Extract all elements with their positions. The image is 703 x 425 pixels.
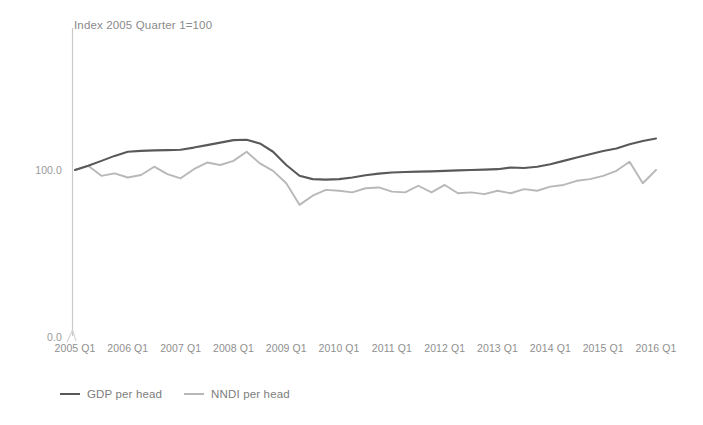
chart-container: Index 2005 Quarter 1=100 100.0 0.0 2005 …	[0, 0, 703, 425]
x-axis-tick-label-2012-q1: 2012 Q1	[418, 342, 472, 354]
x-axis-tick-label-2005-q1: 2005 Q1	[48, 342, 102, 354]
axis-annotation-index-base: Index 2005 Quarter 1=100	[74, 19, 212, 31]
legend-item-gdp-per-head[interactable]: GDP per head	[60, 388, 162, 400]
legend-swatch-gdp-per-head	[60, 393, 80, 395]
y-axis-tick-label-100: 100.0	[22, 164, 62, 176]
x-axis-tick-label-2013-q1: 2013 Q1	[471, 342, 525, 354]
x-axis-tick-label-2015-q1: 2015 Q1	[576, 342, 630, 354]
chart-legend: GDP per head NNDI per head	[60, 388, 290, 400]
x-axis-tick-label-2007-q1: 2007 Q1	[154, 342, 208, 354]
series-line-gdp-per-head	[75, 138, 656, 179]
x-axis-tick-label-2010-q1: 2010 Q1	[312, 342, 366, 354]
legend-swatch-nndi-per-head	[184, 393, 204, 395]
x-axis-tick-label-2009-q1: 2009 Q1	[259, 342, 313, 354]
x-axis-tick-label-2008-q1: 2008 Q1	[206, 342, 260, 354]
legend-label-nndi-per-head: NNDI per head	[211, 388, 290, 400]
y-axis-origin-marker	[67, 330, 76, 342]
x-axis-tick-label-2011-q1: 2011 Q1	[365, 342, 419, 354]
x-axis-tick-label-2014-q1: 2014 Q1	[523, 342, 577, 354]
x-axis-tick-label-2006-q1: 2006 Q1	[101, 342, 155, 354]
legend-item-nndi-per-head[interactable]: NNDI per head	[184, 388, 290, 400]
legend-label-gdp-per-head: GDP per head	[87, 388, 162, 400]
chart-plot-area	[0, 0, 703, 425]
x-axis-tick-label-2016-q1: 2016 Q1	[629, 342, 683, 354]
